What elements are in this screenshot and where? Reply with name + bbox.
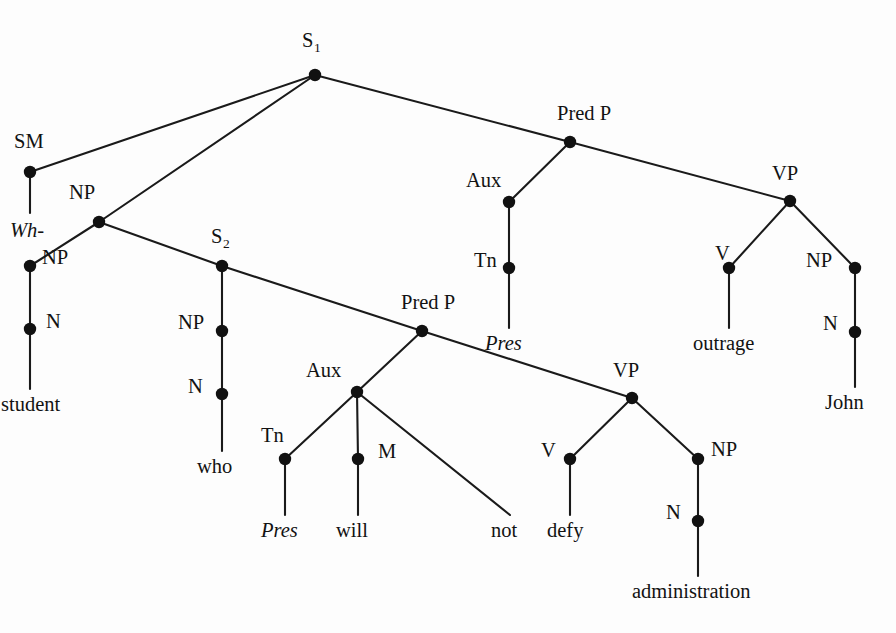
node-label-vp-embedded: VP (613, 360, 639, 381)
tree-node-aux-emb (351, 386, 363, 398)
node-label-predp-embedded: Pred P (401, 292, 455, 313)
node-label-n-student: N (46, 311, 61, 332)
tree-node-tn-emb (279, 453, 291, 465)
leaf-word-pres-main: Pres (485, 333, 522, 354)
node-label-s1: S1 (302, 30, 321, 51)
node-label-s2: S2 (211, 226, 230, 247)
tree-node-s1 (309, 69, 321, 81)
tree-node-m-emb (352, 453, 364, 465)
branch-s1-to-predp_main (315, 75, 570, 142)
leaf-word-pres-embedded: Pres (261, 520, 298, 541)
leaf-word-not: not (491, 520, 517, 541)
tree-node-n-admin (692, 515, 704, 527)
leaf-word-student: student (1, 394, 60, 415)
tree-svg-canvas (0, 0, 896, 633)
tree-node-n-who (216, 388, 228, 400)
tree-node-aux-main (503, 196, 515, 208)
node-label-aux-embedded: Aux (306, 360, 341, 381)
tree-node-vp-emb (626, 392, 638, 404)
tree-node-np-admin (692, 453, 704, 465)
branch-s2-to-predp_emb (222, 266, 422, 331)
tree-node-n-john (849, 326, 861, 338)
leaf-word-john: John (825, 392, 864, 413)
branch-aux_emb-to-tn_emb (285, 392, 357, 459)
leaf-word-wh: Wh- (10, 220, 44, 241)
node-label-v-defy: V (541, 440, 556, 461)
branch-vp_emb-to-np_admin (632, 398, 698, 459)
leaf-word-outrage: outrage (693, 333, 754, 354)
node-subscript: 2 (222, 236, 229, 251)
tree-node-np-john (849, 262, 861, 274)
node-label-aux-main: Aux (466, 170, 501, 191)
tree-node-v-defy (564, 453, 576, 465)
node-label-np-mid: NP (42, 247, 68, 268)
node-label-vp-main: VP (772, 163, 798, 184)
branch-predp_emb-to-vp_emb (422, 331, 632, 398)
node-label-sm: SM (14, 131, 44, 152)
leaf-word-will: will (336, 520, 368, 541)
tree-node-np-upper (93, 216, 105, 228)
tree-node-tn-main (503, 262, 515, 274)
branch-predp_emb-to-aux_emb (357, 331, 422, 392)
tree-node-n-student (24, 323, 36, 335)
node-label-v-outrage: V (715, 243, 730, 264)
branch-vp_emb-to-v_defy (570, 398, 632, 459)
node-label-np-who: NP (178, 312, 204, 333)
node-label-m-embedded: M (378, 441, 396, 462)
node-label-n-who: N (188, 376, 203, 397)
node-label-np-upper: NP (69, 182, 95, 203)
syntax-tree-figure: S1 SM NP NP N S2 NP N Pred P Aux Tn M VP… (0, 0, 896, 633)
tree-node-np-who (216, 325, 228, 337)
branch-predp_main-to-vp_main (570, 142, 790, 201)
tree-node-np-mid (24, 260, 36, 272)
leaf-word-defy: defy (547, 520, 583, 541)
node-label-n-john: N (823, 313, 838, 334)
branch-s1-to-np_upper (99, 75, 315, 222)
node-label-n-administration: N (666, 502, 681, 523)
node-label-tn-main: Tn (474, 250, 497, 271)
tree-node-s2 (216, 260, 228, 272)
branch-aux_emb-to-m_emb (357, 392, 358, 459)
node-subscript: 1 (313, 40, 320, 55)
tree-node-sm (24, 166, 36, 178)
leaf-word-who: who (197, 456, 232, 477)
node-label-tn-embedded: Tn (261, 425, 284, 446)
branch-s1-to-sm (30, 75, 315, 172)
tree-node-vp-main (784, 195, 796, 207)
branch-vp_main-to-v_outrage (729, 201, 790, 268)
branch-predp_main-to-aux_main (509, 142, 570, 202)
branch-layer (30, 75, 855, 576)
leaf-word-administration: administration (632, 581, 750, 602)
tree-node-predp-main (564, 136, 576, 148)
node-label-np-administration: NP (711, 439, 737, 460)
branch-np_upper-to-s2 (99, 222, 222, 266)
node-label-np-john: NP (806, 250, 832, 271)
node-label-predp-main: Pred P (557, 103, 611, 124)
tree-node-predp-emb (416, 325, 428, 337)
